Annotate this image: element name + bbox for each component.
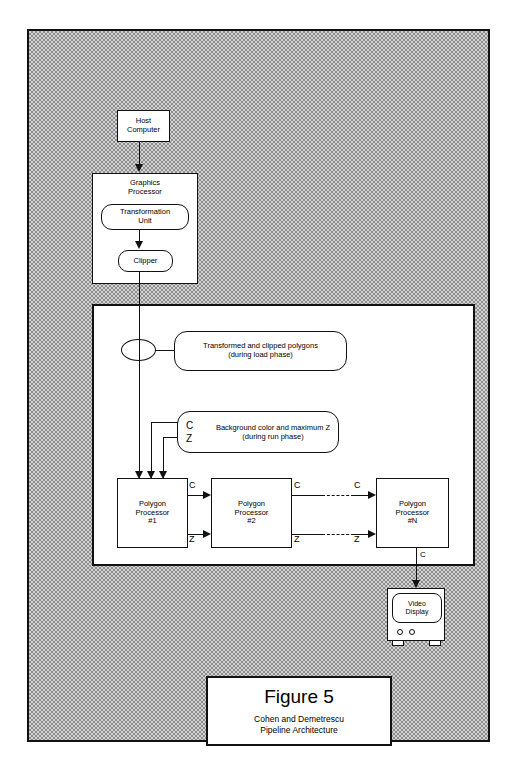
clipper-label: Clipper (134, 257, 158, 266)
pp1-line1: Polygon (139, 499, 166, 508)
monitor-foot-right (429, 641, 441, 646)
arrowhead-pp2-ppn-z (368, 530, 376, 538)
polygon-processor-1-label: Polygon Processor #1 (136, 500, 170, 527)
polygon-processor-1: Polygon Processor #1 (117, 478, 188, 548)
transformed-line2: (during load phase) (228, 350, 293, 359)
clipper-box: Clipper (118, 250, 173, 272)
label-pp1-out-c: C (189, 480, 196, 490)
transformation-unit-label: Transformation Unit (120, 208, 170, 226)
polygon-processor-n-label: Polygon Processor #N (396, 500, 430, 527)
connector-c-horizontal (151, 422, 178, 423)
connector-ellipse-to-note (155, 350, 175, 351)
background-note-z-label: Z (186, 432, 192, 443)
connector-pp2-ppn-c-left (292, 495, 322, 496)
graphics-processor-line2: Processor (128, 187, 162, 196)
background-color-note: C Z Background color and maximum Z (duri… (177, 411, 339, 453)
label-ppn-in-z: Z (354, 534, 360, 544)
arrowhead-host-to-graphics (135, 164, 143, 172)
arrowhead-pp2-ppn-c (368, 491, 376, 499)
transformed-polygons-note: Transformed and clipped polygons (during… (174, 331, 347, 371)
background-note-text: Background color and maximum Z (during r… (214, 423, 332, 441)
video-display-line1: Video (408, 600, 426, 607)
outer-hatched-frame: Host Computer Graphics Processor Transfo… (27, 29, 490, 742)
polygon-processor-2-label: Polygon Processor #2 (235, 500, 269, 527)
pp1-line3: #1 (148, 516, 156, 525)
transformed-line1: Transformed and clipped polygons (203, 341, 318, 350)
transformation-unit-line1: Transformation (120, 207, 170, 216)
monitor-knob-right-icon (409, 629, 415, 635)
arrowhead-pp1-pp2-z (203, 530, 211, 538)
video-display-monitor: Video Display (387, 588, 445, 641)
connector-z-horizontal (163, 437, 178, 438)
background-line1: Background color and maximum Z (216, 423, 330, 432)
host-computer-line2: Computer (127, 125, 160, 134)
pp2-line3: #2 (247, 516, 255, 525)
monitor-foot-left (392, 641, 404, 646)
figure-page: Host Computer Graphics Processor Transfo… (0, 0, 513, 767)
figure-subtitle-line2: Pipeline Architecture (260, 725, 338, 735)
graphics-processor-label: Graphics Processor (92, 179, 198, 196)
host-computer-label: Host Computer (127, 117, 160, 135)
figure-subtitle: Cohen and Demetrescu Pipeline Architectu… (254, 714, 344, 736)
video-display-label: Video Display (406, 600, 429, 617)
video-display-screen: Video Display (392, 593, 442, 623)
connector-pp1-pp2-c (188, 495, 204, 496)
arrowhead-ppn-to-display (412, 580, 420, 588)
ppn-line3: #N (408, 516, 418, 525)
figure-subtitle-line1: Cohen and Demetrescu (254, 714, 344, 724)
arrowhead-transform-to-clipper (135, 241, 143, 249)
label-pp2-out-z: Z (294, 534, 300, 544)
pp2-line2: Processor (235, 508, 269, 517)
ppn-line2: Processor (396, 508, 430, 517)
label-pp2-out-c: C (294, 480, 301, 490)
ppn-line1: Polygon (399, 499, 426, 508)
monitor-knob-left-icon (397, 629, 403, 635)
connector-ppn-to-display (416, 548, 417, 584)
polygon-processor-n: Polygon Processor #N (376, 478, 449, 548)
polygon-processor-2: Polygon Processor #2 (211, 478, 292, 548)
background-note-c-label: C (186, 420, 193, 431)
connector-pp2-ppn-z-dashed (322, 534, 354, 535)
connector-pp2-ppn-c-right (354, 495, 369, 496)
label-ppn-in-c: C (354, 480, 361, 490)
pp2-line1: Polygon (238, 499, 265, 508)
figure-number: Figure 5 (264, 686, 334, 708)
label-pp1-out-z: Z (189, 534, 195, 544)
background-note-signal-labels: C Z (186, 420, 193, 445)
connector-pp2-ppn-c-dashed (322, 495, 354, 496)
host-computer-line1: Host (136, 116, 151, 125)
video-display-line2: Display (406, 608, 429, 615)
pp1-line2: Processor (136, 508, 170, 517)
connector-clipper-to-pp1 (139, 272, 140, 485)
transformed-polygons-text: Transformed and clipped polygons (during… (203, 342, 318, 360)
host-computer-box: Host Computer (117, 110, 170, 142)
label-ppn-out-c: C (420, 550, 426, 559)
arrowhead-pp1-pp2-c (203, 491, 211, 499)
connector-host-to-graphics (139, 142, 140, 166)
background-line2: (during run phase) (242, 432, 303, 441)
figure-caption-box: Figure 5 Cohen and Demetrescu Pipeline A… (206, 676, 392, 746)
polygon-tap-ellipse (121, 339, 156, 361)
transformation-unit-line2: Unit (138, 216, 151, 225)
transformation-unit-box: Transformation Unit (101, 204, 189, 230)
